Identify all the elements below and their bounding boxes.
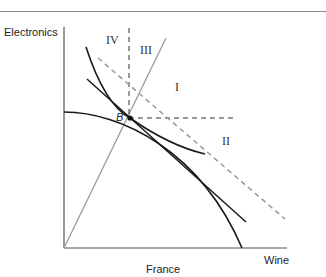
y-axis-label: Electronics <box>4 26 58 38</box>
region-label-iv: IV <box>106 33 119 48</box>
trade-diagram <box>0 0 326 277</box>
x-axis-label: Wine <box>264 254 289 266</box>
region-label-ii: II <box>222 134 230 149</box>
diagram-caption: France <box>146 263 180 275</box>
consumption-ray <box>64 38 166 248</box>
gray-dashed-budget-line <box>98 58 285 219</box>
region-label-i: I <box>175 80 179 95</box>
indifference-curve <box>86 47 205 154</box>
region-label-iii: III <box>140 43 152 58</box>
point-b-label: B <box>116 111 123 123</box>
point-b-marker <box>127 115 132 120</box>
